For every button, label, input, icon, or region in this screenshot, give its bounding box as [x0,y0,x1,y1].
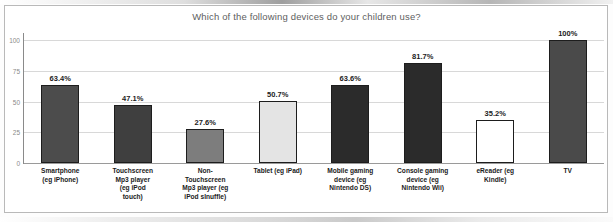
bar-value-label: 27.6% [195,118,216,127]
bar[interactable] [114,105,152,163]
category-label-line: Touchscreen [169,176,242,185]
bar-group: 63.4% [24,33,97,163]
y-axis-tick-label: 25 [13,129,20,136]
category-label-line: eReader (eg [459,167,532,176]
category-label-line: TV [532,167,605,176]
bar-value-label: 81.7% [412,52,433,61]
category-label: TouchscreenMp3 player(eg iPodtouch) [97,167,170,201]
bar-value-label: 47.1% [122,94,143,103]
category-label-line: Touchscreen [97,167,170,176]
y-axis-tick-label: 75 [13,67,20,74]
category-label-line: Mp3 player (eg [169,184,242,193]
bar-group: 100% [532,33,605,163]
y-axis-tick-label: 0 [16,160,20,167]
category-label-line: Tablet (eg iPad) [242,167,315,176]
category-label: Smartphone(eg iPhone) [24,167,97,184]
category-label-line: Mp3 player [97,176,170,185]
category-label: Console gamingdevice (egNintendo Wii) [387,167,460,193]
bar[interactable] [549,40,587,163]
category-label-line: Nintendo Wii) [387,184,460,193]
category-label-line: device (eg [387,176,460,185]
x-axis-category-labels: Smartphone(eg iPhone)TouchscreenMp3 play… [24,167,604,215]
bar-value-label: 63.6% [340,74,361,83]
chart-title: Which of the following devices do your c… [0,11,613,22]
category-label: Tablet (eg iPad) [242,167,315,176]
category-label: TV [532,167,605,176]
x-axis-line [24,163,604,164]
y-axis-tick-label: 100 [9,37,20,44]
category-label-line: iPod sInuffle) [169,193,242,202]
bar-group: 50.7% [242,33,315,163]
category-label: eReader (egKindle) [459,167,532,184]
bar-group: 27.6% [169,33,242,163]
category-label-line: Smartphone [24,167,97,176]
category-label: Mobile gamingdevice (egNintendo DS) [314,167,387,193]
category-label-line: (eg iPod [97,184,170,193]
bar-group: 63.6% [314,33,387,163]
bar-value-label: 63.4% [50,74,71,83]
bar[interactable] [331,85,369,163]
bar[interactable] [186,129,224,163]
bar-group: 35.2% [459,33,532,163]
category-label-line: Mobile gaming [314,167,387,176]
category-label-line: touch) [97,193,170,202]
bar-group: 81.7% [387,33,460,163]
y-axis-tick-label: 50 [13,98,20,105]
bar[interactable] [41,85,79,163]
category-label-line: Non- [169,167,242,176]
scan-artifact-top [0,0,613,4]
bar-group: 47.1% [97,33,170,163]
bar[interactable] [476,120,514,163]
chart-screenshot: Which of the following devices do your c… [0,0,613,222]
category-label-line: (eg iPhone) [24,176,97,185]
bar[interactable] [404,63,442,163]
category-label-line: device (eg [314,176,387,185]
bar-value-label: 35.2% [485,109,506,118]
bar-value-label: 50.7% [267,90,288,99]
bar-value-label: 100% [558,29,577,38]
category-label-line: Nintendo DS) [314,184,387,193]
category-label: Non-TouchscreenMp3 player (egiPod sInuff… [169,167,242,201]
scan-artifact-bottom [0,217,613,222]
bar-series: 63.4%47.1%27.6%50.7%63.6%81.7%35.2%100% [24,33,604,163]
bar[interactable] [259,101,297,163]
category-label-line: Kindle) [459,176,532,185]
category-label-line: Console gaming [387,167,460,176]
